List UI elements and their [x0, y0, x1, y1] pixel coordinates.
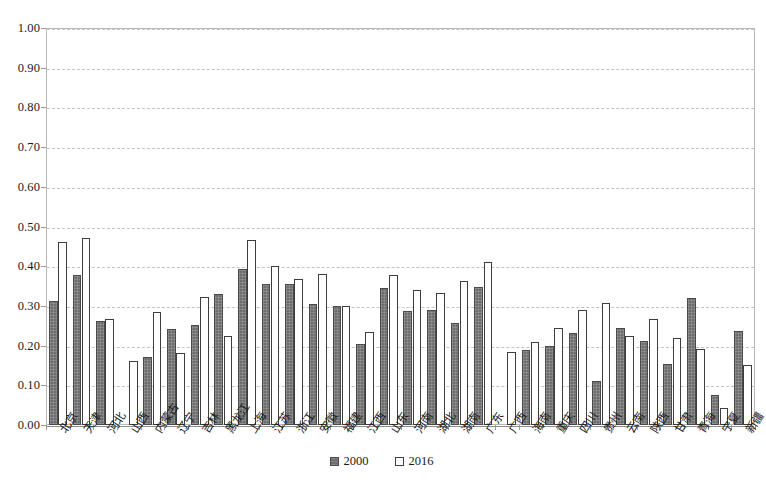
- bar-2016: [58, 242, 67, 425]
- legend-item-2016: 2016: [395, 455, 434, 468]
- bar-2016: [625, 336, 634, 425]
- bar-group: [282, 28, 306, 425]
- bar-group: [377, 28, 401, 425]
- bar-group: [637, 28, 661, 425]
- bar-2000: [96, 321, 105, 425]
- bar-group: [330, 28, 354, 425]
- y-tick-label: 0.10: [18, 379, 40, 392]
- bar-group: [306, 28, 330, 425]
- x-axis-labels: 北京天津河北山西内蒙古辽宁吉林黑龙江上海江苏浙江安徽福建江西山东河南湖北湖南广东…: [46, 425, 755, 475]
- bar-group: [164, 28, 188, 425]
- bar-2016: [318, 274, 327, 425]
- y-tick-label: 0.40: [18, 260, 40, 273]
- bar-2016: [294, 279, 303, 425]
- bar-2016: [484, 262, 493, 425]
- y-tick-label: 0.20: [18, 339, 40, 352]
- bar-2000: [403, 311, 412, 425]
- bar-2016: [578, 310, 587, 425]
- bar-group: [141, 28, 165, 425]
- bar-group: [566, 28, 590, 425]
- bar-group: [211, 28, 235, 425]
- y-tick-label: 0.30: [18, 300, 40, 313]
- bar-group: [731, 28, 755, 425]
- bar-2016: [460, 281, 469, 425]
- bar-group: [259, 28, 283, 425]
- bar-2016: [271, 266, 280, 425]
- bar-2000: [427, 310, 436, 425]
- bar-2000: [569, 333, 578, 425]
- bar-2000: [73, 275, 82, 425]
- bar-group: [188, 28, 212, 425]
- legend-item-2000: 2000: [330, 455, 369, 468]
- bar-2016: [82, 238, 91, 425]
- bar-2016: [602, 303, 611, 425]
- bar-2016: [247, 240, 256, 425]
- bar-2000: [285, 284, 294, 425]
- bar-2000: [451, 323, 460, 425]
- bar-group: [235, 28, 259, 425]
- bar-2000: [309, 304, 318, 425]
- bar-group: [93, 28, 117, 425]
- bar-2000: [474, 287, 483, 425]
- y-tick-label: 0.70: [18, 141, 40, 154]
- bar-2000: [734, 331, 743, 425]
- bar-group: [117, 28, 141, 425]
- bar-group: [46, 28, 70, 425]
- bar-2016: [105, 319, 114, 425]
- bar-group: [471, 28, 495, 425]
- legend-swatch-2000-icon: [330, 457, 339, 466]
- bar-group: [401, 28, 425, 425]
- bar-group: [353, 28, 377, 425]
- bar-group: [519, 28, 543, 425]
- bar-group: [708, 28, 732, 425]
- bar-2016: [649, 319, 658, 425]
- bar-2016: [200, 297, 209, 425]
- bar-group: [660, 28, 684, 425]
- bar-2000: [333, 306, 342, 425]
- bar-2016: [413, 290, 422, 425]
- bar-2000: [687, 298, 696, 425]
- y-tick-label: 0.00: [18, 419, 40, 432]
- legend-label-2000: 2000: [344, 455, 369, 468]
- bar-group: [70, 28, 94, 425]
- bar-2000: [616, 328, 625, 425]
- bar-2000: [49, 301, 58, 425]
- bar-group: [495, 28, 519, 425]
- bar-2000: [191, 325, 200, 425]
- legend-label-2016: 2016: [409, 455, 434, 468]
- y-tick-label: 0.60: [18, 181, 40, 194]
- bar-2016: [224, 336, 233, 425]
- y-tick-label: 0.50: [18, 220, 40, 233]
- bar-2000: [380, 288, 389, 425]
- legend-swatch-2016-icon: [395, 457, 404, 466]
- bar-group: [448, 28, 472, 425]
- y-tick-label: 1.00: [18, 22, 40, 35]
- bar-2000: [262, 284, 271, 425]
- chart-legend: 2000 2016: [0, 455, 763, 468]
- bar-group: [613, 28, 637, 425]
- y-tick-label: 0.80: [18, 101, 40, 114]
- bar-2016: [436, 293, 445, 425]
- bar-2016: [342, 306, 351, 425]
- bar-2016: [554, 328, 563, 425]
- bar-2016: [531, 342, 540, 425]
- bar-2016: [389, 275, 398, 425]
- bar-2000: [214, 294, 223, 425]
- bars-layer: [46, 28, 755, 425]
- bar-2016: [153, 312, 162, 425]
- y-tick-label: 0.90: [18, 61, 40, 74]
- bar-group: [684, 28, 708, 425]
- bar-2016: [365, 332, 374, 425]
- y-axis: 1.000.900.800.700.600.500.400.300.200.10…: [0, 28, 40, 425]
- bar-2016: [673, 338, 682, 425]
- bar-group: [542, 28, 566, 425]
- bar-group: [590, 28, 614, 425]
- bar-group: [424, 28, 448, 425]
